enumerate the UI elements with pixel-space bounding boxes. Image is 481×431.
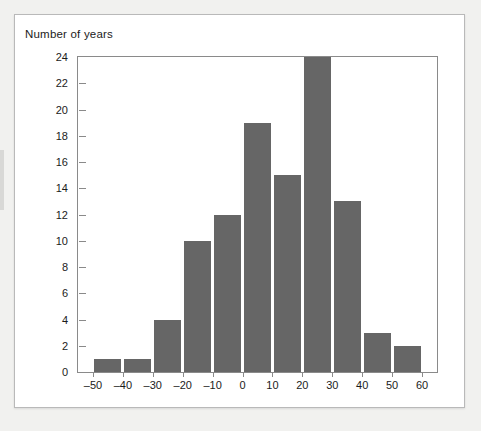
bar xyxy=(184,241,211,372)
x-axis-tick xyxy=(362,372,363,377)
y-axis-tick xyxy=(79,83,86,84)
bars-layer xyxy=(78,57,437,372)
x-axis-tick xyxy=(243,372,244,377)
x-axis-tick xyxy=(213,372,214,377)
page-margin-rule xyxy=(0,150,4,210)
bar xyxy=(334,201,361,372)
y-axis-label: 14 xyxy=(56,182,68,194)
y-axis-tick xyxy=(79,346,86,347)
x-axis-label: –40 xyxy=(114,379,132,391)
x-axis-label: 40 xyxy=(356,379,368,391)
x-axis-tick xyxy=(183,372,184,377)
chart-axis-title: Number of years xyxy=(25,28,113,40)
y-axis-label: 22 xyxy=(56,77,68,89)
x-axis-label: 60 xyxy=(416,379,428,391)
x-axis-tick xyxy=(93,372,94,377)
y-axis-tick xyxy=(79,162,86,163)
y-axis-label: 16 xyxy=(56,156,68,168)
bar xyxy=(154,320,181,373)
y-axis-tick xyxy=(79,188,86,189)
y-axis-tick xyxy=(79,110,86,111)
x-axis-tick xyxy=(332,372,333,377)
y-axis-tick xyxy=(79,241,86,242)
bar xyxy=(304,57,331,372)
y-axis-label: 10 xyxy=(56,235,68,247)
y-axis-tick xyxy=(79,293,86,294)
y-axis-tick xyxy=(79,267,86,268)
bar xyxy=(274,175,301,372)
y-axis-label: 18 xyxy=(56,130,68,142)
bar xyxy=(394,346,421,372)
x-axis-label: 50 xyxy=(386,379,398,391)
y-axis-tick xyxy=(79,320,86,321)
screenshot-root: Number of years 024681012141618202224 –5… xyxy=(0,0,481,431)
plot-area: 024681012141618202224 –50–40–30–20–10010… xyxy=(77,56,438,373)
x-axis-label: 0 xyxy=(239,379,245,391)
x-axis-tick xyxy=(153,372,154,377)
bar xyxy=(214,215,241,373)
x-axis-label: 20 xyxy=(296,379,308,391)
y-axis-label: 4 xyxy=(62,314,68,326)
y-axis-label: 2 xyxy=(62,340,68,352)
x-axis-tick xyxy=(392,372,393,377)
bar xyxy=(364,333,391,372)
bar xyxy=(124,359,151,372)
x-axis-label: –50 xyxy=(84,379,102,391)
y-axis-label: 12 xyxy=(56,209,68,221)
x-axis-tick xyxy=(422,372,423,377)
x-axis-tick xyxy=(302,372,303,377)
x-axis-label: 30 xyxy=(326,379,338,391)
x-axis-tick xyxy=(272,372,273,377)
x-axis-tick xyxy=(123,372,124,377)
y-axis-label: 24 xyxy=(56,51,68,63)
y-axis-label: 6 xyxy=(62,287,68,299)
y-axis-label: 0 xyxy=(62,366,68,378)
figure-card: Number of years 024681012141618202224 –5… xyxy=(14,14,465,408)
y-axis-tick xyxy=(79,136,86,137)
bar xyxy=(94,359,121,372)
y-axis-tick xyxy=(79,215,86,216)
y-axis-label: 20 xyxy=(56,104,68,116)
bar xyxy=(244,123,271,372)
x-axis-label: –30 xyxy=(144,379,162,391)
x-axis-label: 10 xyxy=(266,379,278,391)
x-axis-label: –20 xyxy=(174,379,192,391)
y-axis-label: 8 xyxy=(62,261,68,273)
x-axis-label: –10 xyxy=(203,379,221,391)
